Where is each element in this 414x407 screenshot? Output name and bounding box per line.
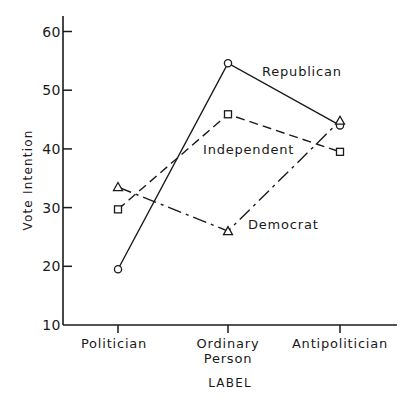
y-tick-label: 10 <box>42 317 61 333</box>
x-category-label: Politician <box>81 336 147 351</box>
series-lines <box>118 63 340 269</box>
y-axis-title: Vote Intention <box>21 129 35 230</box>
series-line-republican <box>118 63 340 269</box>
series-label-democrat: Democrat <box>248 217 319 232</box>
triangle-marker-icon <box>336 116 345 124</box>
square-marker-icon <box>115 206 122 213</box>
series-line-democrat <box>118 121 340 231</box>
triangle-marker-icon <box>114 183 123 191</box>
circle-marker-icon <box>224 60 231 67</box>
series-markers <box>114 60 345 273</box>
y-tick-label: 60 <box>42 24 61 40</box>
y-tick-label: 20 <box>42 258 61 274</box>
series-labels: RepublicanIndependentDemocrat <box>203 64 342 232</box>
square-marker-icon <box>225 111 232 118</box>
y-tick-label: 50 <box>42 82 61 98</box>
x-axis-title: LABEL <box>208 376 252 390</box>
x-category-label: Antipolitician <box>292 336 388 351</box>
square-marker-icon <box>337 148 344 155</box>
triangle-marker-icon <box>224 227 233 235</box>
y-axis-ticks: 102030405060 <box>42 24 72 334</box>
series-line-independent <box>118 114 340 209</box>
circle-marker-icon <box>114 266 121 273</box>
line-chart: 102030405060 PoliticianOrdinaryPersonAnt… <box>0 0 414 407</box>
x-category-label: Person <box>204 351 253 366</box>
series-label-republican: Republican <box>262 64 342 79</box>
x-category-label: Ordinary <box>197 336 260 351</box>
y-tick-label: 40 <box>42 141 61 157</box>
y-tick-label: 30 <box>42 200 61 216</box>
x-axis-categories: PoliticianOrdinaryPersonAntipolitician <box>81 325 388 366</box>
series-label-independent: Independent <box>203 142 294 157</box>
